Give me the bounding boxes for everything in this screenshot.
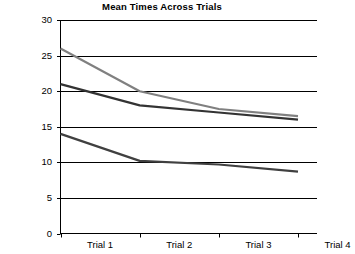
data-series-group bbox=[61, 49, 299, 172]
y-axis-tick-label: 15 bbox=[26, 122, 52, 132]
series-line-3 bbox=[61, 134, 299, 172]
x-axis-tick-label: Trial 1 bbox=[70, 239, 130, 250]
y-axis-tick-label: 10 bbox=[26, 157, 52, 167]
x-axis-tick-label: Trial 4 bbox=[308, 239, 355, 250]
series-line-1 bbox=[61, 49, 299, 117]
y-axis-tick-label: 5 bbox=[26, 193, 52, 203]
x-axis-tick-label: Trial 3 bbox=[228, 239, 288, 250]
y-axis-tick-label: 30 bbox=[26, 15, 52, 25]
y-axis-tick-label: 20 bbox=[26, 86, 52, 96]
axis-lines-group bbox=[60, 20, 317, 234]
y-axis-tick-label: 0 bbox=[26, 229, 52, 239]
series-line-2 bbox=[61, 84, 299, 120]
tick-marks-group bbox=[57, 21, 299, 238]
y-axis-tick-label: 25 bbox=[26, 51, 52, 61]
x-axis-tick-label: Trial 2 bbox=[149, 239, 209, 250]
